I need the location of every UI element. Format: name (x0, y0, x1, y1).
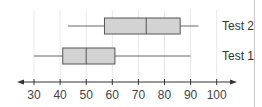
tick-label: 70 (132, 88, 146, 102)
box-plot-test-2 (68, 18, 199, 34)
tick-label: 80 (158, 88, 172, 102)
right-border (254, 0, 255, 107)
tick-label: 50 (80, 88, 94, 102)
box-plot-chart: Test 2Test 1 30405060708090100 (0, 0, 262, 107)
box-plots (34, 18, 198, 64)
series-labels: Test 2Test 1 (222, 19, 254, 63)
tick-label: 40 (53, 88, 67, 102)
right-arrow-icon (230, 80, 237, 85)
iqr-box (104, 18, 180, 34)
x-axis: 30405060708090100 (17, 79, 237, 102)
tick-label: 100 (207, 88, 227, 102)
left-arrow-icon (17, 80, 24, 85)
iqr-box (63, 48, 115, 64)
tick-label: 60 (106, 88, 120, 102)
series-label: Test 1 (222, 49, 254, 63)
tick-label: 30 (27, 88, 41, 102)
series-label: Test 2 (222, 19, 254, 33)
box-plot-test-1 (34, 48, 191, 64)
tick-label: 90 (184, 88, 198, 102)
